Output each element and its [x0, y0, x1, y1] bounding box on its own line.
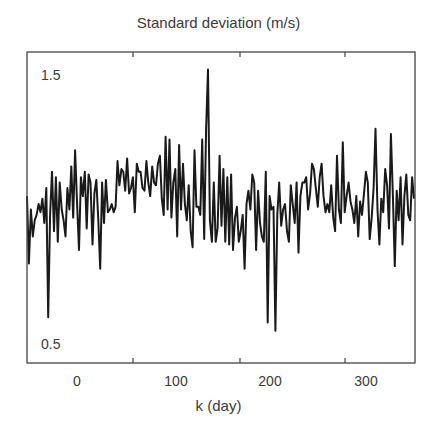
- x-axis-tick-labels: 0100200300: [73, 373, 378, 389]
- x-tick-label: 100: [164, 373, 188, 389]
- y-tick-label: 1.5: [41, 67, 61, 83]
- x-tick-label: 300: [354, 373, 378, 389]
- line-chart: 0100200300 1.50.5: [0, 0, 437, 440]
- data-series: [27, 70, 414, 331]
- series-line: [27, 70, 414, 331]
- x-tick-label: 0: [73, 373, 81, 389]
- y-tick-label: 0.5: [41, 336, 61, 352]
- x-tick-label: 200: [258, 373, 282, 389]
- x-axis-label: k (day): [0, 397, 437, 414]
